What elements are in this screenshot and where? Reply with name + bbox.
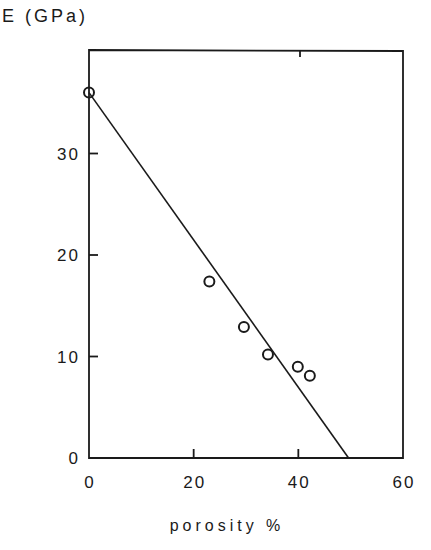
y-axis-title: E (GPa) (2, 6, 88, 26)
x-tick-label: 0 (84, 473, 95, 492)
y-tick-label: 20 (57, 246, 80, 265)
x-tick-label: 40 (288, 473, 311, 492)
axis-ticks (89, 50, 300, 458)
y-tick-label: 10 (57, 348, 80, 367)
x-tick-label: 60 (393, 473, 416, 492)
fit-line (89, 93, 349, 458)
chart-canvas: 01020300204060 E (GPa) porosity % (0, 0, 431, 550)
plot-frame (89, 50, 403, 458)
x-axis-title: porosity % (170, 517, 285, 534)
data-point-marker (263, 349, 273, 359)
data-point-marker (305, 371, 315, 381)
data-points (84, 88, 315, 381)
axis-labels: 01020300204060 (57, 145, 415, 493)
data-point-marker (239, 322, 249, 332)
axes-box (89, 50, 403, 458)
data-point-marker (204, 276, 214, 286)
y-tick-label: 30 (57, 145, 80, 164)
regression-line (89, 93, 349, 458)
data-point-marker (293, 362, 303, 372)
y-tick-label: 0 (69, 449, 80, 468)
x-tick-label: 20 (183, 473, 206, 492)
